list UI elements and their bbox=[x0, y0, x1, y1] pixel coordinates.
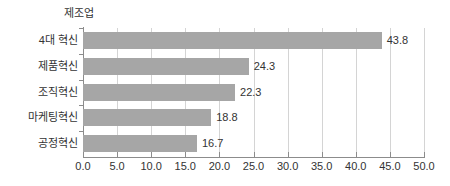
bar-chart: 제조업 43.824.322.318.816.7 4대 혁신제품혁신조직혁신마케… bbox=[0, 0, 450, 186]
category-label: 제품혁신 bbox=[38, 58, 78, 75]
bar-row: 22.3 bbox=[83, 80, 424, 106]
y-axis-tick bbox=[79, 54, 83, 55]
category-label: 4대 혁신 bbox=[39, 32, 78, 49]
x-axis-tick bbox=[219, 152, 220, 157]
y-axis-tick bbox=[79, 105, 83, 106]
plot-area: 43.824.322.318.816.7 bbox=[83, 28, 424, 157]
category-label: 마케팅혁신 bbox=[28, 109, 78, 126]
bar-value-label: 24.3 bbox=[249, 58, 275, 75]
x-axis-tick bbox=[83, 152, 84, 157]
x-axis-tick bbox=[322, 152, 323, 157]
bar[interactable] bbox=[83, 32, 382, 49]
chart-title: 제조업 bbox=[64, 4, 94, 20]
bar[interactable] bbox=[83, 84, 235, 101]
x-axis-tick bbox=[356, 152, 357, 157]
y-axis-tick bbox=[79, 80, 83, 81]
bar-value-label: 16.7 bbox=[197, 135, 223, 152]
y-axis-tick bbox=[79, 131, 83, 132]
x-axis-tick bbox=[185, 152, 186, 157]
gridline bbox=[424, 28, 425, 157]
bar-value-label: 18.8 bbox=[211, 109, 237, 126]
bar-row: 24.3 bbox=[83, 54, 424, 80]
bar[interactable] bbox=[83, 109, 211, 126]
y-axis-tick bbox=[79, 28, 83, 29]
x-axis-label: 50.0 bbox=[404, 160, 444, 172]
bar-value-label: 22.3 bbox=[235, 84, 261, 101]
bar[interactable] bbox=[83, 58, 249, 75]
x-axis-tick bbox=[390, 152, 391, 157]
x-axis-tick bbox=[424, 152, 425, 157]
x-axis-line bbox=[83, 157, 425, 158]
bar-value-label: 43.8 bbox=[382, 32, 408, 49]
x-axis-tick bbox=[151, 152, 152, 157]
x-axis-tick bbox=[288, 152, 289, 157]
category-label: 공정혁신 bbox=[38, 135, 78, 152]
bar-row: 43.8 bbox=[83, 28, 424, 54]
category-label: 조직혁신 bbox=[38, 84, 78, 101]
bar-row: 18.8 bbox=[83, 105, 424, 131]
bar[interactable] bbox=[83, 135, 197, 152]
x-axis-tick bbox=[254, 152, 255, 157]
x-axis-tick bbox=[117, 152, 118, 157]
